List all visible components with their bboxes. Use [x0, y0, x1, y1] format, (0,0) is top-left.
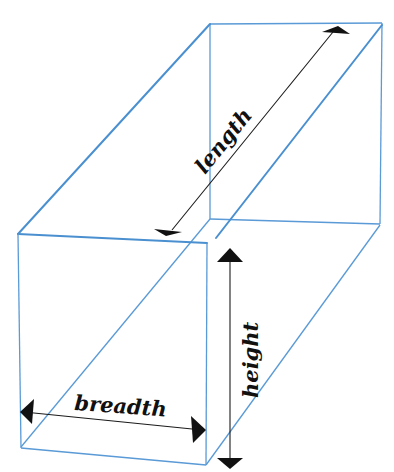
breadth-label: breadth — [74, 390, 168, 421]
cuboid-diagram: length breadth height — [0, 0, 394, 472]
front-face — [18, 234, 207, 465]
height-label: height — [238, 321, 263, 398]
length-arrow — [154, 26, 350, 236]
top-face — [18, 24, 382, 238]
